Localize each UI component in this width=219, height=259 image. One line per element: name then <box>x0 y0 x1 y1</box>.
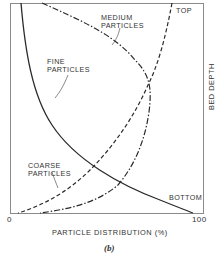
medium-particles-curve <box>40 3 150 213</box>
bottom-annotation: BOTTOM <box>169 194 202 202</box>
medium-particles-label: MEDIUM PARTICLES <box>101 14 144 30</box>
particle-distribution-chart <box>0 0 219 259</box>
x-tick-0: 0 <box>7 216 12 224</box>
top-annotation: TOP <box>176 7 192 15</box>
fine-particles-curve <box>21 3 193 213</box>
fine-leader-line <box>55 75 68 98</box>
figure-caption: (b) <box>104 243 115 253</box>
coarse-particles-label: COARSE PARTICLES <box>28 162 71 178</box>
y-axis-title: BED DEPTH <box>207 63 216 110</box>
coarse-label-line2: PARTICLES <box>28 170 71 178</box>
x-axis-title: PARTICLE DISTRIBUTION (%) <box>52 228 168 237</box>
fine-particles-label: FINE PARTICLES <box>47 58 90 74</box>
medium-label-line2: PARTICLES <box>101 22 144 30</box>
fine-label-line2: PARTICLES <box>47 66 90 74</box>
x-tick-100: 100 <box>192 216 207 224</box>
